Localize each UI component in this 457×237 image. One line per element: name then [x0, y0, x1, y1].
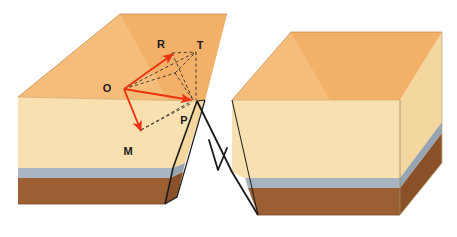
hangingwall-upper-front-face	[232, 100, 400, 178]
footwall-marker-bed-front	[18, 168, 173, 178]
label-R: R	[157, 38, 165, 50]
block-diagram-svg: O R T P M	[0, 0, 457, 237]
hangingwall-block	[232, 32, 442, 215]
footwall-upper-front-face	[18, 97, 197, 168]
label-P: P	[180, 114, 187, 126]
label-T: T	[197, 39, 204, 51]
label-O: O	[103, 82, 112, 94]
hangingwall-marker-bed-front	[245, 178, 400, 188]
footwall-basal-front	[18, 178, 170, 204]
label-M: M	[123, 145, 132, 157]
figure-canvas: O R T P M	[0, 0, 457, 237]
hangingwall-basal-front	[248, 188, 400, 215]
